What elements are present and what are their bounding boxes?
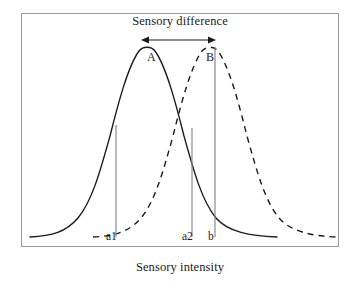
tick-label-b: b xyxy=(208,231,214,243)
tick-label-a1: a1 xyxy=(106,231,117,243)
axis-caption: Sensory intensity xyxy=(0,261,360,274)
distribution-curves xyxy=(0,0,360,282)
curve-a-solid xyxy=(30,47,277,237)
sensory-difference-figure: Sensory difference A B a1 a2 b Sensory i… xyxy=(0,0,360,282)
figure-title: Sensory difference xyxy=(0,15,360,28)
peak-label-b: B xyxy=(206,51,214,63)
sensory-difference-arrow xyxy=(141,36,216,43)
peak-label-a: A xyxy=(147,51,156,63)
tick-label-a2: a2 xyxy=(182,231,193,243)
arrow-head-left xyxy=(141,36,149,43)
arrow-head-right xyxy=(208,36,216,43)
